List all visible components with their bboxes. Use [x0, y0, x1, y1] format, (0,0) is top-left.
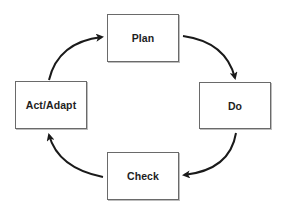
- node-act-adapt: Act/Adapt: [15, 81, 87, 129]
- node-act-adapt-label: Act/Adapt: [26, 99, 76, 111]
- node-plan-label: Plan: [132, 32, 155, 44]
- arrow-plan-to-do: [183, 36, 235, 78]
- pdca-cycle-diagram: Plan Do Check Act/Adapt: [0, 0, 284, 207]
- node-do: Do: [199, 82, 271, 129]
- arrow-act-to-plan: [49, 37, 102, 80]
- arrow-check-to-act: [49, 135, 103, 177]
- node-check-label: Check: [127, 170, 159, 182]
- arrow-do-to-check: [184, 133, 236, 175]
- node-plan: Plan: [107, 14, 179, 62]
- node-do-label: Do: [228, 100, 242, 112]
- node-check: Check: [107, 152, 179, 200]
